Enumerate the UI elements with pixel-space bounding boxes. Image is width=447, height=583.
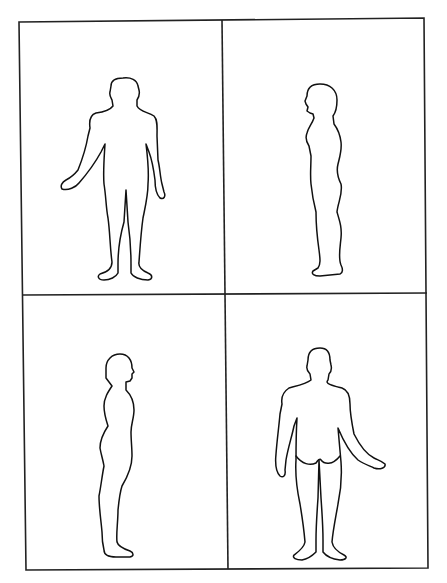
- buttocks-line: [296, 456, 340, 464]
- body-chart-diagram: [0, 0, 447, 583]
- front-view-figure: [61, 78, 165, 280]
- side-view-left-figure: [305, 84, 342, 276]
- side-view-right-figure: [99, 354, 134, 557]
- back-view-figure: [276, 348, 385, 560]
- grid-frame: [19, 18, 428, 570]
